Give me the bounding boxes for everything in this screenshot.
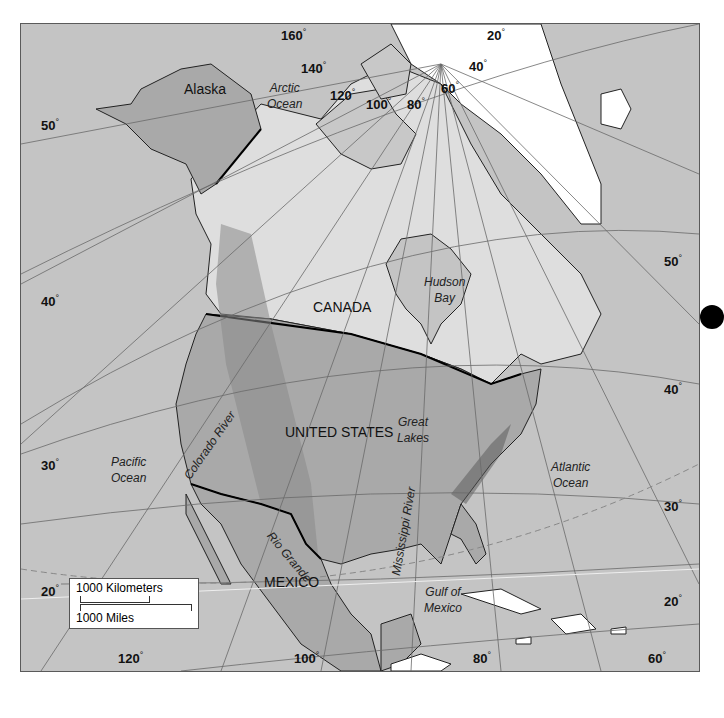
- lon-label-120-bottom: 120°: [118, 651, 143, 666]
- lon-label-60-top: 60°: [441, 81, 459, 96]
- scale-km-bar: [80, 596, 150, 603]
- scale-mi-label: 1000 Miles: [76, 611, 134, 625]
- lat-label-40-left: 40°: [41, 294, 59, 309]
- lat-label-50-left: 50°: [41, 118, 59, 133]
- lat-label-30-left: 30°: [41, 458, 59, 473]
- lon-label-80-top: 80°: [407, 97, 425, 112]
- lat-label-30-right: 30°: [664, 499, 682, 514]
- lon-label-160: 160°: [281, 28, 306, 43]
- scale-mi-bar: [80, 604, 192, 611]
- lon-label-120-top: 120°: [330, 88, 355, 103]
- hispaniola-island: [551, 614, 596, 634]
- lon-label-140: 140°: [301, 61, 326, 76]
- lon-label-20: 20°: [487, 28, 505, 43]
- label-atlantic-ocean: AtlanticOcean: [551, 459, 590, 491]
- lon-label-60-bottom: 60°: [648, 651, 666, 666]
- lon-label-100-bottom: 100°: [294, 651, 319, 666]
- label-gulf-of-mexico: Gulf ofMexico: [424, 584, 462, 616]
- lat-label-20-right: 20°: [664, 594, 682, 609]
- cuba-island: [461, 589, 541, 614]
- lat-label-20-left: 20°: [41, 584, 59, 599]
- map-canvas: [21, 24, 699, 671]
- label-usa: UNITED STATES: [285, 424, 393, 440]
- lon-label-100-top: 100°: [366, 97, 391, 112]
- lat-label-40-right: 40°: [664, 382, 682, 397]
- north-america-map: Alaska CANADA UNITED STATES MEXICO Arcti…: [20, 23, 700, 672]
- lat-label-50-right: 50°: [664, 254, 682, 269]
- scale-km-label: 1000 Kilometers: [76, 581, 163, 595]
- label-great-lakes: GreatLakes: [397, 414, 429, 446]
- lon-label-80-bottom: 80°: [473, 651, 491, 666]
- label-alaska: Alaska: [184, 81, 226, 97]
- edge-marker-dot: [700, 305, 724, 329]
- lon-label-40: 40°: [469, 59, 487, 74]
- label-pacific-ocean: PacificOcean: [111, 454, 146, 486]
- label-canada: CANADA: [313, 299, 371, 315]
- label-arctic-ocean: ArcticOcean: [267, 80, 302, 112]
- scale-bar: 1000 Kilometers 1000 Miles: [69, 578, 199, 629]
- label-hudson-bay: HudsonBay: [424, 274, 465, 306]
